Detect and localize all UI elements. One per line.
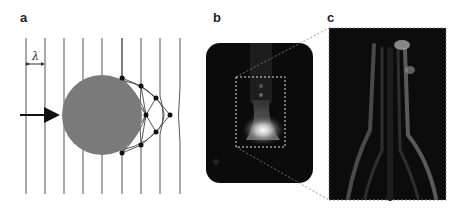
figure-canvas: λ — [0, 0, 464, 209]
wavelength-symbol: λ — [31, 50, 39, 63]
obstacle-circle — [62, 75, 142, 155]
